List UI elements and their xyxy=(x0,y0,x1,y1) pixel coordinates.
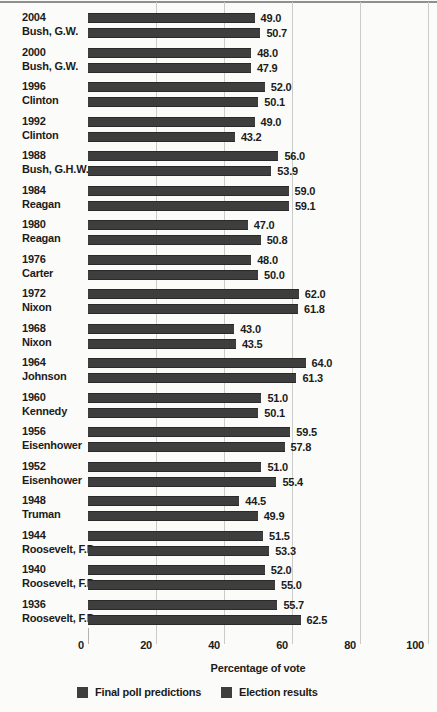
bar-value-election-result: 47.9 xyxy=(257,62,278,75)
row-candidate-label: Roosevelt, F.D. xyxy=(22,612,97,625)
x-tick-label-100: 100 xyxy=(388,639,424,652)
bar-final-poll-prediction xyxy=(88,220,248,230)
row-candidate-label: Roosevelt, F.D. xyxy=(22,543,97,556)
bar-final-poll-prediction xyxy=(88,289,299,299)
row-year-label: 1956 xyxy=(22,425,46,438)
bar-final-poll-prediction xyxy=(88,255,251,265)
bar-election-result xyxy=(88,511,258,521)
row-candidate-label: Clinton xyxy=(22,94,58,107)
row-year-label: 1936 xyxy=(22,598,46,611)
legend-label-election-results: Election results xyxy=(239,686,318,699)
bar-election-result xyxy=(88,339,236,349)
row-candidate-label: Nixon xyxy=(22,336,52,349)
row-candidate-label: Bush, G.W. xyxy=(22,60,78,73)
bar-election-result xyxy=(88,304,298,314)
bar-election-result xyxy=(88,442,285,452)
bar-final-poll-prediction xyxy=(88,13,255,23)
row-candidate-label: Bush, G.W. xyxy=(22,25,78,38)
bar-value-final-poll-prediction: 43.0 xyxy=(240,323,261,336)
x-tick-label-80: 80 xyxy=(320,639,356,652)
bar-election-result xyxy=(88,63,251,73)
bar-value-election-result: 50.0 xyxy=(264,269,285,282)
legend-item-final-poll-predictions: Final poll predictions xyxy=(77,686,201,699)
bar-election-result xyxy=(88,408,258,418)
bar-election-result xyxy=(88,373,296,383)
row-year-label: 1964 xyxy=(22,356,46,369)
legend-swatch-final-poll-predictions xyxy=(77,687,88,698)
bar-value-final-poll-prediction: 64.0 xyxy=(312,357,333,370)
bar-election-result xyxy=(88,615,301,625)
bar-final-poll-prediction xyxy=(88,48,251,58)
bar-election-result xyxy=(88,270,258,280)
bar-value-final-poll-prediction: 51.5 xyxy=(269,530,290,543)
bar-final-poll-prediction xyxy=(88,324,234,334)
bar-election-result xyxy=(88,97,258,107)
bar-value-election-result: 50.8 xyxy=(267,234,288,247)
row-candidate-label: Reagan xyxy=(22,198,61,211)
bar-value-final-poll-prediction: 48.0 xyxy=(257,47,278,60)
bar-final-poll-prediction xyxy=(88,600,277,610)
row-year-label: 2000 xyxy=(22,46,46,59)
x-tick-label-40: 40 xyxy=(184,639,220,652)
row-candidate-label: Eisenhower xyxy=(22,474,82,487)
row-year-label: 1968 xyxy=(22,322,46,335)
row-year-label: 1944 xyxy=(22,529,46,542)
x-tick-label-60: 60 xyxy=(252,639,288,652)
row-candidate-label: Truman xyxy=(22,508,61,521)
row-year-label: 1960 xyxy=(22,391,46,404)
bar-value-final-poll-prediction: 59.5 xyxy=(296,426,317,439)
row-year-label: 1972 xyxy=(22,287,46,300)
bar-election-result xyxy=(88,166,271,176)
row-candidate-label: Kennedy xyxy=(22,405,67,418)
x-tick-label-0: 0 xyxy=(48,639,84,652)
bar-final-poll-prediction xyxy=(88,151,278,161)
row-candidate-label: Reagan xyxy=(22,232,61,245)
row-candidate-label: Eisenhower xyxy=(22,439,82,452)
bar-election-result xyxy=(88,546,269,556)
row-year-label: 1948 xyxy=(22,494,46,507)
row-year-label: 1984 xyxy=(22,184,46,197)
bar-value-election-result: 57.8 xyxy=(291,441,312,454)
row-year-label: 1988 xyxy=(22,149,46,162)
row-year-label: 1996 xyxy=(22,80,46,93)
row-year-label: 1952 xyxy=(22,460,46,473)
bar-final-poll-prediction xyxy=(88,393,261,403)
gridline-80 xyxy=(360,2,361,644)
axis-tick-0 xyxy=(88,628,89,644)
row-candidate-label: Nixon xyxy=(22,301,52,314)
poll-vs-results-bar-chart: Percentage of vote Final poll prediction… xyxy=(0,0,437,712)
row-year-label: 2004 xyxy=(22,11,46,24)
bar-value-election-result: 55.4 xyxy=(282,476,303,489)
bar-final-poll-prediction xyxy=(88,496,239,506)
bar-final-poll-prediction xyxy=(88,82,265,92)
bar-value-election-result: 53.9 xyxy=(277,165,298,178)
bar-final-poll-prediction xyxy=(88,565,265,575)
bar-value-election-result: 55.0 xyxy=(281,579,302,592)
bar-election-result xyxy=(88,201,289,211)
bar-value-election-result: 50.7 xyxy=(266,27,287,40)
bar-value-final-poll-prediction: 56.0 xyxy=(284,150,305,163)
bar-value-election-result: 62.5 xyxy=(307,614,328,627)
bar-final-poll-prediction xyxy=(88,462,261,472)
row-candidate-label: Johnson xyxy=(22,370,66,383)
row-candidate-label: Carter xyxy=(22,267,53,280)
bar-election-result xyxy=(88,132,235,142)
bar-election-result xyxy=(88,580,275,590)
bar-value-final-poll-prediction: 62.0 xyxy=(305,288,326,301)
x-tick-label-20: 20 xyxy=(116,639,152,652)
legend-item-election-results: Election results xyxy=(221,686,318,699)
bar-value-election-result: 61.8 xyxy=(304,303,325,316)
bar-value-final-poll-prediction: 49.0 xyxy=(261,116,282,129)
bar-value-final-poll-prediction: 51.0 xyxy=(267,461,288,474)
bar-final-poll-prediction xyxy=(88,186,289,196)
bar-final-poll-prediction xyxy=(88,117,255,127)
row-candidate-label: Bush, G.H.W. xyxy=(22,163,89,176)
gridline-100 xyxy=(428,2,429,644)
row-year-label: 1976 xyxy=(22,253,46,266)
bar-value-final-poll-prediction: 51.0 xyxy=(267,392,288,405)
bar-final-poll-prediction xyxy=(88,427,290,437)
row-candidate-label: Roosevelt, F.D. xyxy=(22,577,97,590)
bar-value-election-result: 53.3 xyxy=(275,545,296,558)
bar-value-election-result: 43.2 xyxy=(241,131,262,144)
bar-value-final-poll-prediction: 55.7 xyxy=(283,599,304,612)
